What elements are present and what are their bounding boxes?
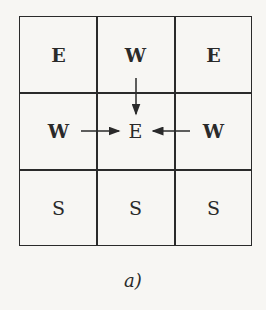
arrows-layer [0, 0, 266, 310]
figure-caption: a) [0, 270, 266, 291]
